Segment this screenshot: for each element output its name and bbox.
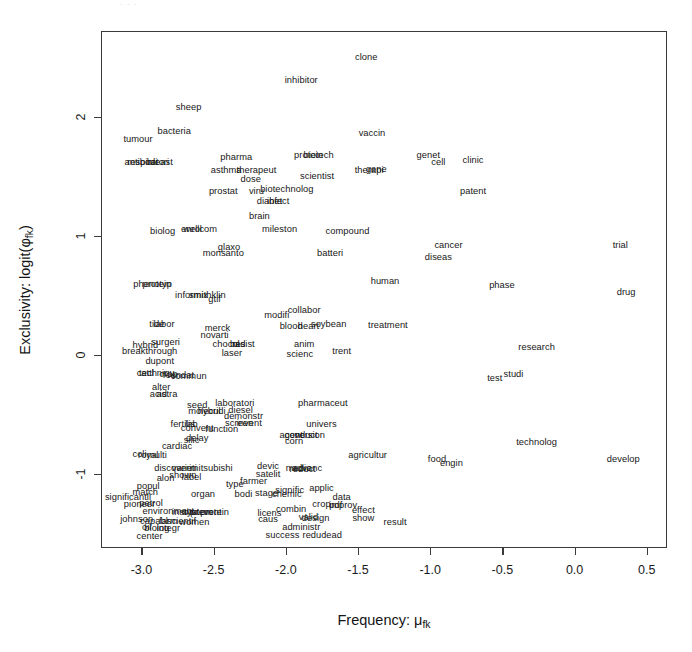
word-label: show <box>352 515 374 524</box>
x-tick-label: -3.0 <box>131 564 153 577</box>
word-label: drug <box>617 288 636 297</box>
word-label: clone <box>355 54 377 63</box>
y-tick <box>94 236 101 237</box>
word-label: brain <box>249 212 270 221</box>
word-label: gtif <box>208 295 221 304</box>
word-label: vaccin <box>359 130 386 139</box>
word-label: research <box>518 343 555 352</box>
x-label-subscript: fk <box>422 619 430 630</box>
y-tick-label: -1 <box>75 469 88 480</box>
word-label: protein <box>142 280 171 289</box>
x-tick <box>502 548 503 555</box>
y-tick <box>94 117 101 118</box>
word-label: bodi <box>235 491 253 500</box>
word-label: organ <box>191 491 215 500</box>
word-label: sheep <box>176 104 202 113</box>
word-label: treatment <box>368 322 408 331</box>
x-axis-label: Frequency: μfk <box>337 612 430 630</box>
word-label: technolog <box>516 438 557 447</box>
word-label: function <box>205 425 238 434</box>
word-label: cell <box>431 158 445 167</box>
y-tick <box>94 355 101 356</box>
word-label: corn <box>285 437 303 446</box>
plot-area: cloneinhibitorsheepbacteriatumourvaccina… <box>102 32 666 547</box>
word-label: applic <box>309 485 334 494</box>
word-label: caus <box>258 516 278 525</box>
word-label: studi <box>504 370 524 379</box>
word-label: chemic <box>272 491 302 500</box>
word-label: engin <box>440 460 463 469</box>
y-tick-label: 2 <box>75 113 88 120</box>
word-label: gene <box>366 166 387 175</box>
word-label: cancer <box>434 242 462 251</box>
word-label: trent <box>332 348 351 357</box>
x-tick <box>647 548 648 555</box>
word-label: biotech <box>303 151 333 160</box>
x-tick-label: -0.5 <box>492 564 514 577</box>
top-scan-artifact: · · · <box>120 0 450 9</box>
word-label: collabor <box>288 306 321 315</box>
word-label: labor <box>154 320 175 329</box>
x-tick <box>214 548 215 555</box>
word-label: inhibitor <box>285 76 318 85</box>
word-label: success <box>266 531 300 540</box>
y-label-subscript: fk <box>24 230 35 238</box>
y-tick-label: 0 <box>75 352 88 359</box>
word-label: human <box>371 278 400 287</box>
word-label: soybean <box>311 320 347 329</box>
word-label: phase <box>489 281 515 290</box>
word-label: modifi <box>264 311 289 320</box>
x-tick-label: 0.0 <box>566 564 583 577</box>
word-label: scienc <box>286 350 313 359</box>
x-tick-label: -1.5 <box>347 564 369 577</box>
word-label: crop <box>312 500 330 509</box>
x-tick <box>286 548 287 555</box>
word-label: dose <box>241 175 261 184</box>
word-label: univers <box>306 420 336 429</box>
word-label: center <box>137 532 163 541</box>
word-label: tumour <box>123 136 152 145</box>
word-label: compound <box>326 227 370 236</box>
word-label: patent <box>460 187 486 196</box>
word-label: test <box>487 374 502 383</box>
word-label: agricultur <box>348 451 387 460</box>
word-label: label <box>182 473 202 482</box>
x-tick <box>141 548 142 555</box>
word-label: result <box>384 518 407 527</box>
word-label: hybridi <box>198 407 226 416</box>
word-label: multi <box>147 451 167 460</box>
x-tick <box>430 548 431 555</box>
y-axis-label: Exclusivity: logit(φfk) <box>17 225 35 355</box>
word-label: invent <box>237 419 262 428</box>
word-label: biolog <box>150 227 175 236</box>
word-label: lead <box>324 531 342 540</box>
word-label: develop <box>607 455 640 464</box>
word-label: dupont <box>145 357 174 366</box>
y-tick-label: 1 <box>75 232 88 239</box>
word-label: pharma <box>220 154 252 163</box>
word-label: infect <box>267 198 290 207</box>
word-label: prostat <box>209 187 238 196</box>
word-label: mileston <box>262 225 297 234</box>
word-label: clinic <box>463 156 484 165</box>
word-label: women <box>179 518 209 527</box>
x-tick-label: -2.5 <box>203 564 225 577</box>
word-label: astra <box>157 391 178 400</box>
x-tick-label: -2.0 <box>275 564 297 577</box>
x-tick-label: 0.5 <box>638 564 655 577</box>
word-label: pharmaceut <box>298 399 348 408</box>
word-label: bacteria <box>157 127 190 136</box>
x-tick-label: -1.0 <box>419 564 441 577</box>
word-label: scientist <box>300 173 334 182</box>
word-label: wellcom <box>183 225 217 234</box>
word-label: laser <box>222 349 242 358</box>
word-label: commun <box>171 373 207 382</box>
word-label: reduc <box>302 531 326 540</box>
y-tick <box>94 474 101 475</box>
x-tick <box>358 548 359 555</box>
word-label: batteri <box>317 249 343 258</box>
word-label: farmer <box>240 478 267 487</box>
word-label: biotechnolog <box>260 186 313 195</box>
word-label: monsanto <box>203 249 244 258</box>
word-label: type <box>226 480 244 489</box>
